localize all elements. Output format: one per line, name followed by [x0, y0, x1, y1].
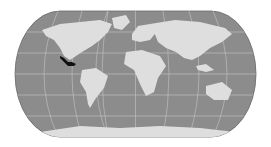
world-map	[0, 0, 271, 147]
